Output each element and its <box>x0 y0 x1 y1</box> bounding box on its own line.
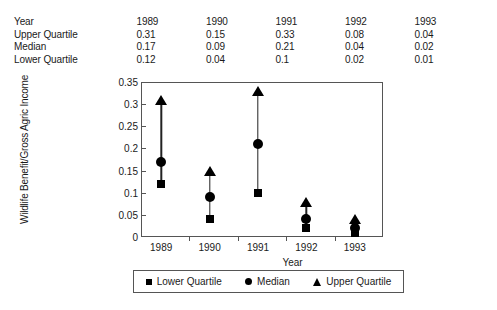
lower-quartile-marker <box>206 215 214 223</box>
lower-quartile-marker <box>157 180 165 188</box>
cell-year-1993: 1993 <box>414 16 484 29</box>
row-label-year: Year <box>14 16 136 29</box>
upper-quartile-marker <box>155 95 167 105</box>
cell-median-1991: 0.21 <box>275 41 345 54</box>
legend-item-lower-quartile: Lower Quartile <box>146 276 222 287</box>
row-label-lower-quartile: Lower Quartile <box>14 54 136 67</box>
row-label-upper-quartile: Upper Quartile <box>14 29 136 42</box>
median-marker <box>301 214 311 224</box>
legend-label-lower-quartile: Lower Quartile <box>157 276 222 287</box>
plot-frame <box>141 82 383 237</box>
upper-quartile-marker <box>252 86 264 96</box>
legend-item-median: Median <box>245 276 290 287</box>
table-row: Year 1989 1990 1991 1992 1993 <box>14 16 484 29</box>
x-tick-label: 1989 <box>150 242 172 253</box>
cell-upper-1989: 0.31 <box>136 29 206 42</box>
legend-label-median: Median <box>257 276 290 287</box>
cell-year-1991: 1991 <box>275 16 345 29</box>
cell-year-1992: 1992 <box>345 16 415 29</box>
y-tick-mark <box>141 215 146 216</box>
y-tick-mark <box>141 126 146 127</box>
y-tick-mark <box>141 171 146 172</box>
x-axis-title: Year <box>0 257 497 268</box>
legend-item-upper-quartile: Upper Quartile <box>313 276 391 287</box>
y-tick-mark <box>141 148 146 149</box>
y-axis-title: Wildlife Benefit/Gross Agric Income <box>19 70 30 230</box>
cell-median-1989: 0.17 <box>136 41 206 54</box>
cell-upper-1991: 0.33 <box>275 29 345 42</box>
cell-lower-1993: 0.01 <box>414 54 484 67</box>
y-tick-label: 0.3 <box>124 99 138 110</box>
row-label-median: Median <box>14 41 136 54</box>
x-tick-label: 1993 <box>344 242 366 253</box>
y-tick-label: 0.35 <box>119 77 138 88</box>
y-tick-label: 0.05 <box>119 209 138 220</box>
square-marker-icon <box>146 279 152 285</box>
cell-median-1990: 0.09 <box>206 41 276 54</box>
table-row: Median 0.17 0.09 0.21 0.04 0.02 <box>14 41 484 54</box>
y-tick-label: 0 <box>132 232 138 243</box>
y-tick-mark <box>141 104 146 105</box>
x-tick-label: 1992 <box>295 242 317 253</box>
x-tick-label: 1990 <box>198 242 220 253</box>
x-tick-mark <box>286 237 287 241</box>
cell-lower-1990: 0.04 <box>206 54 276 67</box>
quartile-range-line <box>160 100 161 184</box>
circle-marker-icon <box>245 278 252 285</box>
x-tick-mark <box>189 237 190 241</box>
cell-lower-1992: 0.02 <box>345 54 415 67</box>
table-row: Lower Quartile 0.12 0.04 0.1 0.02 0.01 <box>14 54 484 67</box>
x-tick-mark <box>238 237 239 241</box>
quartile-data-table: Year 1989 1990 1991 1992 1993 Upper Quar… <box>14 16 484 66</box>
cell-median-1993: 0.02 <box>414 41 484 54</box>
quartile-scatter-chart: Wildlife Benefit/Gross Agric Income 00.0… <box>0 72 497 252</box>
y-axis-tick-labels: 00.050.10.150.20.250.30.35 <box>106 82 138 237</box>
table-body: Year 1989 1990 1991 1992 1993 Upper Quar… <box>14 16 484 66</box>
cell-lower-1991: 0.1 <box>275 54 345 67</box>
cell-year-1990: 1990 <box>206 16 276 29</box>
upper-quartile-marker <box>204 166 216 176</box>
cell-year-1989: 1989 <box>136 16 206 29</box>
cell-lower-1989: 0.12 <box>136 54 206 67</box>
median-marker <box>205 192 215 202</box>
y-tick-label: 0.2 <box>124 143 138 154</box>
lower-quartile-marker <box>254 189 262 197</box>
cell-median-1992: 0.04 <box>345 41 415 54</box>
chart-legend: Lower Quartile Median Upper Quartile <box>133 270 404 293</box>
median-marker <box>156 157 166 167</box>
cell-upper-1990: 0.15 <box>206 29 276 42</box>
y-tick-mark <box>141 193 146 194</box>
lower-quartile-marker <box>302 224 310 232</box>
cell-upper-1992: 0.08 <box>345 29 415 42</box>
lower-quartile-marker <box>351 229 359 237</box>
x-tick-label: 1991 <box>247 242 269 253</box>
upper-quartile-marker <box>300 197 312 207</box>
x-tick-mark <box>335 237 336 241</box>
y-tick-label: 0.15 <box>119 165 138 176</box>
table-row: Upper Quartile 0.31 0.15 0.33 0.08 0.04 <box>14 29 484 42</box>
median-marker <box>253 139 263 149</box>
triangle-marker-icon <box>313 278 321 286</box>
y-tick-label: 0.1 <box>124 187 138 198</box>
cell-upper-1993: 0.04 <box>414 29 484 42</box>
legend-label-upper-quartile: Upper Quartile <box>326 276 391 287</box>
y-tick-label: 0.25 <box>119 121 138 132</box>
